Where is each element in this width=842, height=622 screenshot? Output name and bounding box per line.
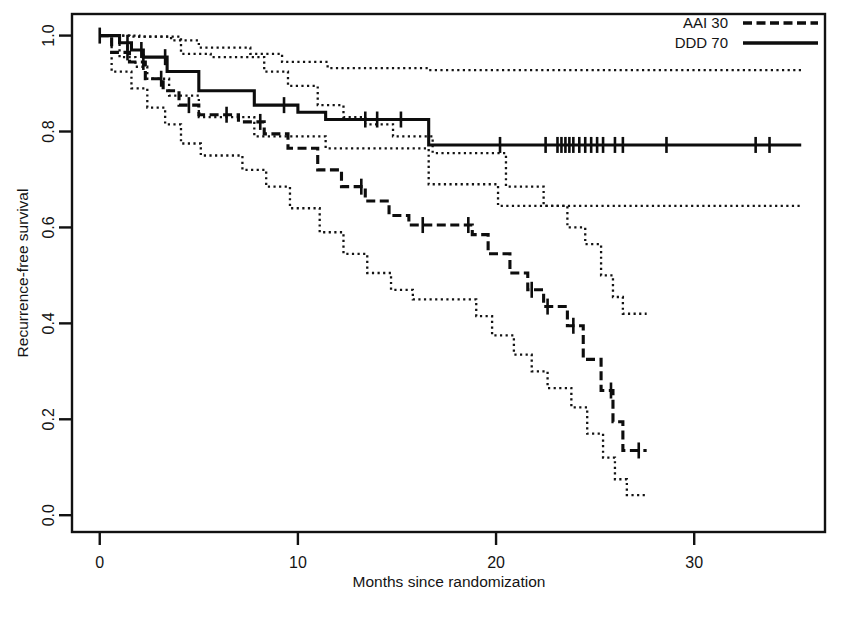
- x-axis-title: Months since randomization: [353, 573, 546, 590]
- y-tick-label-0.8: 0.8: [40, 120, 57, 142]
- x-tick-label-30: 30: [685, 554, 703, 571]
- legend-label-ddd-70: DDD 70: [675, 34, 728, 51]
- km-survival-figure: 0102030 0.00.20.40.60.81.0 Months since …: [0, 0, 842, 622]
- x-tick-label-10: 10: [289, 554, 307, 571]
- legend-label-aai-30: AAI 30: [683, 14, 728, 31]
- km-plot-canvas: 0102030 0.00.20.40.60.81.0 Months since …: [0, 0, 842, 622]
- y-tick-label-1.0: 1.0: [40, 24, 57, 46]
- x-tick-label-20: 20: [487, 554, 505, 571]
- y-tick-label-0.6: 0.6: [40, 216, 57, 238]
- y-axis-title: Recurrence-free survival: [14, 189, 31, 358]
- y-tick-label-0.0: 0.0: [40, 504, 57, 526]
- plot-background: [0, 0, 842, 622]
- x-tick-label-0: 0: [95, 554, 104, 571]
- y-tick-label-0.2: 0.2: [40, 408, 57, 430]
- y-tick-label-0.4: 0.4: [40, 312, 57, 334]
